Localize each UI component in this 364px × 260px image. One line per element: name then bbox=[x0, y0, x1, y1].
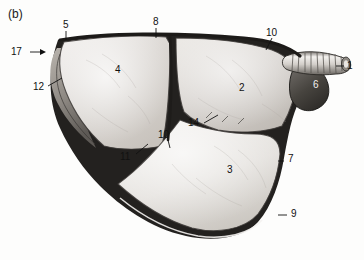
panel-label: (b) bbox=[8, 8, 23, 20]
label-10-cranial: 10 bbox=[266, 28, 277, 38]
label-8: 8 bbox=[153, 17, 159, 27]
trachea-1 bbox=[282, 52, 350, 75]
label-3-caudal-lobe: 3 bbox=[227, 165, 233, 175]
label-5: 5 bbox=[63, 20, 69, 30]
label-6-accessory-lobe: 6 bbox=[313, 80, 319, 90]
label-12: 12 bbox=[33, 82, 44, 92]
label-14: 14 bbox=[188, 118, 199, 128]
label-1-trachea: 1 bbox=[347, 61, 353, 71]
label-10-caudal: 10 bbox=[158, 130, 169, 140]
label-17: 17 bbox=[11, 47, 22, 57]
label-4-cranial-lobe: 4 bbox=[115, 65, 121, 75]
label-7: 7 bbox=[288, 154, 294, 164]
label-9: 9 bbox=[291, 209, 297, 219]
specimen-figure bbox=[0, 0, 364, 260]
label-2-middle-lobe: 2 bbox=[239, 83, 245, 93]
label-11: 11 bbox=[120, 152, 130, 162]
